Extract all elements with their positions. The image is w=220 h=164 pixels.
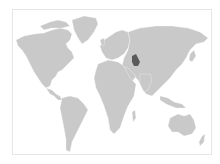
new-zealand [199,134,205,146]
greenland [72,16,98,44]
world-map [0,0,220,164]
central-america [46,88,62,100]
madagascar [132,110,136,122]
japan [189,50,196,62]
australia [168,114,196,136]
south-america [60,96,88,152]
se-asia-islands [160,96,186,108]
arctic-islands [40,20,70,30]
north-america [16,28,74,88]
